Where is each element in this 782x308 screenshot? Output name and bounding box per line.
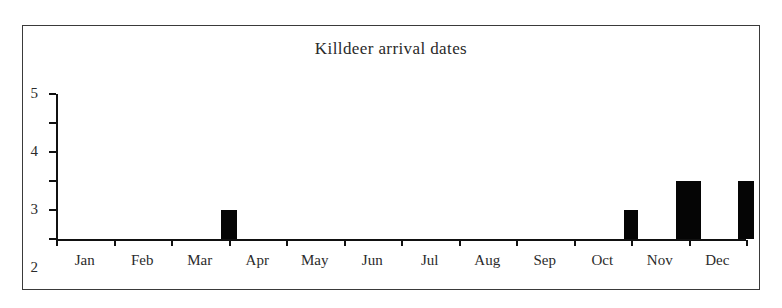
- x-axis-tick-label: Dec: [705, 253, 729, 268]
- x-axis-tick-label: Feb: [131, 253, 154, 268]
- x-axis-tick-label: Aug: [474, 253, 500, 268]
- x-axis-tick-label: Mar: [187, 253, 212, 268]
- chart-frame: Killdeer arrival dates 012345 JanFebMarA…: [22, 25, 760, 290]
- x-axis-tick: [689, 240, 691, 246]
- y-axis-tick-label: 4: [31, 144, 39, 159]
- y-axis-tick: 2: [49, 180, 56, 182]
- bar-mar: [221, 210, 237, 239]
- x-axis-tick: [746, 240, 748, 246]
- x-axis-tick-label: Nov: [647, 253, 673, 268]
- x-axis-tick-label: Jun: [362, 253, 383, 268]
- y-axis-tick: 3: [49, 151, 56, 153]
- y-axis-tick-label: 5: [31, 86, 39, 101]
- x-axis-tick: [114, 240, 116, 246]
- x-axis-tick-label: Sep: [534, 253, 557, 268]
- x-axis-tick: [56, 240, 58, 246]
- y-axis-tick: 1: [49, 209, 56, 211]
- x-axis-tick-label: Jul: [421, 253, 439, 268]
- x-axis-tick: [229, 240, 231, 246]
- x-axis-tick: [171, 240, 173, 246]
- bar-nov: [676, 181, 701, 239]
- y-axis-tick: 0: [49, 238, 56, 240]
- x-axis-tick-label: Oct: [591, 253, 613, 268]
- x-axis-tick-label: Apr: [246, 253, 269, 268]
- bar-oct: [624, 210, 638, 239]
- x-axis-tick-label: May: [301, 253, 329, 268]
- x-axis-tick: [516, 240, 518, 246]
- y-axis-line: [56, 94, 58, 239]
- y-axis-tick-label: 3: [31, 202, 39, 217]
- y-axis-tick-label: 2: [31, 260, 39, 275]
- x-axis-tick: [459, 240, 461, 246]
- chart-title: Killdeer arrival dates: [23, 39, 759, 59]
- bar-dec: [738, 181, 754, 239]
- plot-area: 012345 JanFebMarAprMayJunJulAugSepOctNov…: [56, 94, 746, 239]
- x-axis-tick-label: Jan: [75, 253, 95, 268]
- x-axis-tick: [574, 240, 576, 246]
- y-axis-tick: 4: [49, 122, 56, 124]
- y-axis-tick: 5: [49, 93, 56, 95]
- x-axis-tick: [401, 240, 403, 246]
- x-axis-tick: [631, 240, 633, 246]
- x-axis-tick: [286, 240, 288, 246]
- x-axis-tick: [344, 240, 346, 246]
